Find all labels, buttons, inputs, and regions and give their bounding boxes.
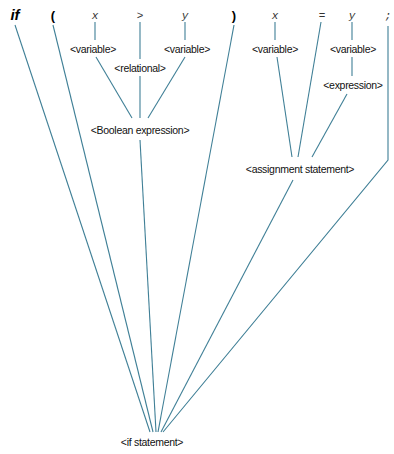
terminal-greater-than: > (137, 10, 144, 22)
parse-tree-diagram: if ( x > y ) x = y ; <variable> <relatio… (0, 0, 394, 454)
terminal-left-paren: ( (51, 8, 56, 23)
edge-lparen-root (53, 25, 153, 432)
terminal-y: y (181, 10, 189, 22)
terminal-y-assign: y (348, 10, 356, 22)
terminal-x-assign: x (271, 10, 279, 22)
nonterminals: <variable> <relational> <variable> <Bool… (70, 43, 383, 448)
terminal-if: if (10, 6, 21, 23)
edge-rparen-root (158, 25, 234, 432)
node-variable-y-assign: <variable> (330, 43, 376, 55)
terminals: if ( x > y ) x = y ; (10, 6, 391, 23)
terminal-right-paren: ) (232, 8, 236, 23)
node-expression: <expression> (323, 79, 383, 91)
terminal-equals: = (319, 10, 326, 22)
node-if-statement: <if statement> (121, 436, 184, 448)
edge-eq-assignment (298, 22, 321, 157)
edge-expression-assignment (312, 94, 347, 157)
node-boolean-expression: <Boolean expression> (91, 124, 190, 136)
node-relational: <relational> (114, 62, 165, 74)
node-variable-x: <variable> (70, 43, 116, 55)
terminal-x: x (91, 10, 99, 22)
edge-assignment-root (161, 180, 293, 432)
node-variable-x-assign: <variable> (252, 43, 298, 55)
node-variable-y: <variable> (164, 43, 210, 55)
terminal-semicolon: ; (385, 10, 392, 22)
node-assignment-statement: <assignment statement> (246, 163, 355, 175)
edge-if-root (15, 25, 150, 432)
edge-variable-assignment (277, 57, 292, 157)
